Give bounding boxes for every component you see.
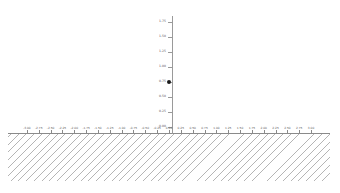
- x-axis-tick: [98, 130, 99, 133]
- x-axis-tick: [51, 130, 52, 133]
- y-axis-tick: [168, 22, 172, 23]
- x-axis-tick: [74, 130, 75, 133]
- x-axis-spine: [8, 133, 330, 134]
- x-axis-tick: [205, 130, 206, 133]
- y-axis-tick-label: 0.25: [150, 110, 166, 113]
- y-axis-tick-label: 0.50: [150, 95, 166, 98]
- x-axis-tick: [264, 130, 265, 133]
- y-axis-tick-label: 1.25: [150, 50, 166, 53]
- x-axis-tick: [287, 130, 288, 133]
- x-axis-tick: [216, 130, 217, 133]
- y-axis-spine: [172, 16, 173, 134]
- x-axis-tick: [145, 130, 146, 133]
- y-axis-tick: [168, 67, 172, 68]
- y-axis-tick: [168, 97, 172, 98]
- x-axis-tick: [228, 130, 229, 133]
- x-axis-tick: [62, 130, 63, 133]
- x-axis-tick: [181, 130, 182, 133]
- x-axis-tick: [133, 130, 134, 133]
- hatched-half-plane-region: [8, 133, 330, 181]
- x-axis-tick: [299, 130, 300, 133]
- x-axis-tick: [311, 130, 312, 133]
- y-axis-tick: [168, 52, 172, 53]
- x-axis-tick: [276, 130, 277, 133]
- x-axis-tick: [27, 130, 28, 133]
- y-axis-tick-label: 0.75: [150, 80, 166, 83]
- y-axis-tick: [168, 112, 172, 113]
- x-axis-tick: [252, 130, 253, 133]
- y-axis-tick-label: 1.75: [150, 20, 166, 23]
- y-axis-tick: [168, 37, 172, 38]
- y-axis-tick-label: 1.50: [150, 35, 166, 38]
- x-axis-tick: [193, 130, 194, 133]
- x-axis-tick: [169, 130, 170, 133]
- x-axis-tick-label: 3.00: [304, 127, 318, 130]
- x-axis-tick: [122, 130, 123, 133]
- x-axis-tick: [157, 130, 158, 133]
- x-axis-tick: [240, 130, 241, 133]
- x-axis-tick: [110, 130, 111, 133]
- x-axis-tick: [86, 130, 87, 133]
- x-axis-tick: [39, 130, 40, 133]
- plot-figure: 0.000.250.500.751.001.251.501.75 -3.00-2…: [0, 0, 340, 193]
- y-axis-tick-label: 1.00: [150, 65, 166, 68]
- data-point-marker: [167, 80, 171, 84]
